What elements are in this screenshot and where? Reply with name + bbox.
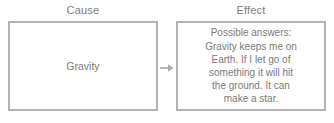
cause-effect-diagram: Cause Effect Gravity Possible answers: G… xyxy=(0,0,334,123)
column-heading-cause: Cause xyxy=(8,3,158,17)
effect-box[interactable]: Possible answers: Gravity keeps me on Ea… xyxy=(176,21,326,111)
arrow-right-icon xyxy=(159,60,175,76)
cause-box[interactable]: Gravity xyxy=(8,21,158,111)
cause-box-text: Gravity xyxy=(62,60,103,73)
column-heading-effect: Effect xyxy=(176,3,326,17)
effect-box-text: Possible answers: Gravity keeps me on Ea… xyxy=(201,26,301,105)
